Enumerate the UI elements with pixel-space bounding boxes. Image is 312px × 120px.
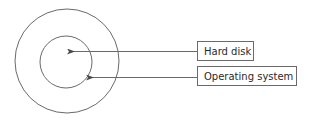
label-hard-disk: Hard disk	[197, 41, 254, 61]
diagram-canvas	[0, 0, 312, 120]
label-hard-disk-text: Hard disk	[204, 46, 251, 57]
label-operating-system-text: Operating system	[204, 71, 293, 82]
inner-circle	[40, 36, 92, 88]
label-operating-system: Operating system	[197, 66, 297, 86]
outer-circle	[15, 9, 119, 113]
